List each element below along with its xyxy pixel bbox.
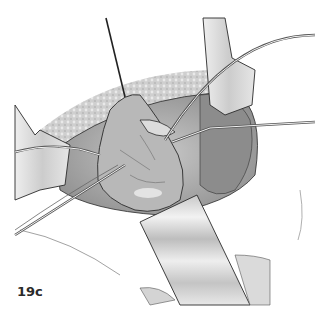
illustration-drawing: [0, 0, 329, 323]
surgical-illustration: 19c: [0, 0, 329, 323]
figure-label: 19c: [17, 284, 43, 299]
skin-contour-left: [20, 230, 120, 275]
organ-highlight: [134, 188, 162, 198]
skin-contour-right: [298, 190, 302, 240]
probe-instrument: [106, 18, 125, 97]
tissue-bottom-left: [140, 288, 175, 306]
